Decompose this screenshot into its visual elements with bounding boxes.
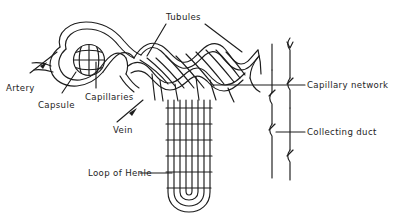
label-capillary-network: Capillary network bbox=[307, 80, 388, 90]
efferent-vein-vessel bbox=[120, 74, 139, 92]
label-capsule: Capsule bbox=[38, 100, 75, 110]
leader-vein bbox=[117, 100, 143, 122]
label-loop-of-henle: Loop of Henle bbox=[88, 168, 152, 178]
nephron-illustration: Tubules Artery Capsule Capillaries Vein … bbox=[0, 0, 419, 224]
capillary-network-vessel bbox=[270, 44, 272, 178]
label-vein: Vein bbox=[113, 125, 133, 135]
nephron-diagram: Tubules Artery Capsule Capillaries Vein … bbox=[0, 0, 419, 224]
label-artery: Artery bbox=[6, 83, 35, 93]
convoluted-tubules-shape bbox=[128, 43, 261, 102]
collecting-duct-vessel bbox=[287, 38, 293, 180]
label-capillaries: Capillaries bbox=[85, 92, 134, 102]
label-collecting-duct: Collecting duct bbox=[307, 127, 377, 137]
loop-of-henle-shape bbox=[166, 100, 212, 212]
glomerulus-tuft bbox=[74, 45, 105, 76]
label-tubules: Tubules bbox=[165, 12, 201, 22]
